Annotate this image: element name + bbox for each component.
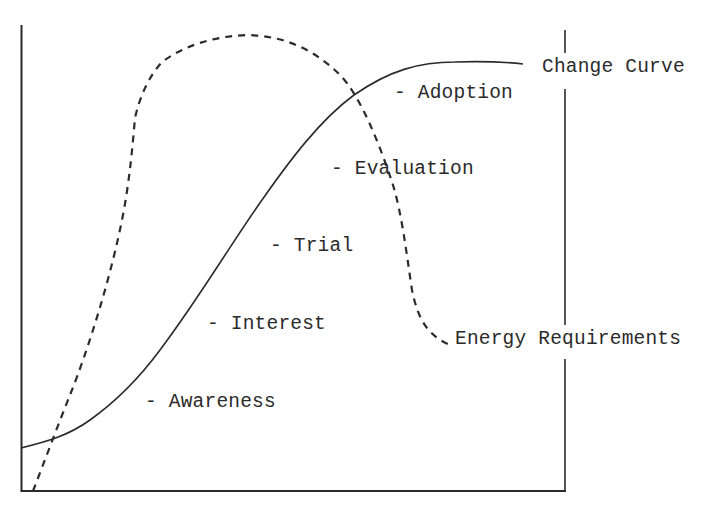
stage-adoption-label: - Adoption xyxy=(394,84,513,104)
change-curve-diagram: Change Curve Energy Requirements - Aware… xyxy=(0,0,715,512)
stage-interest-label: - Interest xyxy=(207,315,326,335)
change-curve-label: Change Curve xyxy=(542,58,685,78)
stage-trial-label: - Trial xyxy=(270,237,353,257)
energy-requirements-label: Energy Requirements xyxy=(455,330,681,350)
stage-awareness-label: - Awareness xyxy=(145,393,276,413)
stage-evaluation-label: - Evaluation xyxy=(331,160,474,180)
energy-requirements-line xyxy=(33,35,448,491)
